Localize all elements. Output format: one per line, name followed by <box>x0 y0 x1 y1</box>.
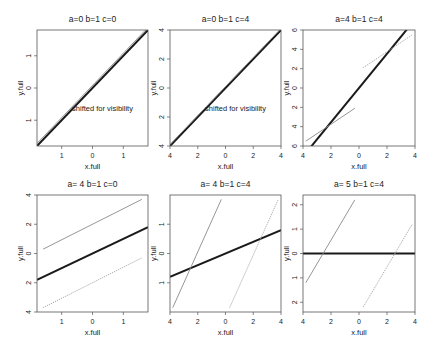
series-right <box>230 199 279 307</box>
series-group <box>303 200 415 307</box>
y-tick-label: 2 <box>291 67 298 71</box>
x-axis-label: x.full <box>351 162 367 171</box>
x-tick-label: 0 <box>357 318 361 325</box>
x-tick-label: 0 <box>357 152 361 159</box>
x-tick-label: 4 <box>301 152 305 159</box>
y-axis-label: y.full <box>16 246 25 261</box>
x-tick-label: 4 <box>413 152 417 159</box>
y-tick-label: 1 <box>158 281 165 285</box>
y-tick-label: 2 <box>158 57 165 61</box>
x-tick-label: 1 <box>121 318 125 325</box>
y-axis-label: y.full <box>282 246 291 261</box>
y-tick-label: 4 <box>25 193 32 197</box>
series-right <box>363 224 412 307</box>
x-tick-label: 0 <box>91 318 95 325</box>
panel-title: a=4 b=1 c=4 <box>335 14 383 24</box>
x-tick-label: 4 <box>168 318 172 325</box>
series-lower <box>306 108 355 141</box>
x-tick-label: 2 <box>329 318 333 325</box>
series-group <box>170 199 281 307</box>
series-left <box>306 200 355 283</box>
chart-panel-2: a=0 b=1 c=44202442024x.fully.fullshifted… <box>149 14 283 171</box>
x-tick-label: 2 <box>251 152 255 159</box>
series-fit <box>37 227 148 280</box>
x-tick-label: 2 <box>196 318 200 325</box>
y-axis-label: y.full <box>149 80 158 95</box>
x-axis-label: x.full <box>218 328 234 337</box>
y-tick-label: 0 <box>291 251 298 255</box>
series-shifted <box>37 27 148 143</box>
y-tick-label: 2 <box>158 115 165 119</box>
y-tick-label: 1 <box>291 276 298 280</box>
y-axis-label: y.full <box>282 80 291 95</box>
x-tick-label: 2 <box>329 152 333 159</box>
y-axis-label: y.full <box>16 80 25 95</box>
x-tick-label: 2 <box>385 318 389 325</box>
x-tick-label: 4 <box>279 152 283 159</box>
series-left <box>173 199 222 307</box>
series-group <box>37 199 148 307</box>
x-tick-label: 4 <box>168 152 172 159</box>
panel-title: a=0 b=1 c=4 <box>202 14 250 24</box>
x-tick-label: 4 <box>279 318 283 325</box>
series-upper <box>363 35 412 68</box>
series-lower <box>43 258 142 308</box>
y-tick-label: 1 <box>25 54 32 58</box>
chart-panel-3: a=4 b=1 c=4420246420246x.fully.full <box>282 14 417 171</box>
x-tick-label: 2 <box>385 152 389 159</box>
y-tick-label: 4 <box>291 125 298 129</box>
y-tick-label: 2 <box>291 300 298 304</box>
y-tick-label: 2 <box>291 203 298 207</box>
y-axis-label: y.full <box>149 246 158 261</box>
chart-panel-5: a= 4 b=1 c=442024101x.fully.full <box>149 179 283 337</box>
x-tick-label: 2 <box>196 152 200 159</box>
chart-grid: a=0 b=1 c=0101101x.fully.fullshifted for… <box>0 0 435 349</box>
x-tick-label: 2 <box>251 318 255 325</box>
panel-title: a= 5 b=1 c=4 <box>334 179 384 189</box>
series-fit <box>170 230 281 277</box>
x-tick-label: 0 <box>91 152 95 159</box>
y-tick-label: 6 <box>291 28 298 32</box>
series-fit <box>37 30 148 146</box>
y-tick-label: 4 <box>158 28 165 32</box>
chart-panel-4: a= 4 b=1 c=010142024x.fully.full <box>16 179 148 337</box>
y-tick-label: 2 <box>25 222 32 226</box>
x-tick-label: 4 <box>413 318 417 325</box>
y-tick-label: 2 <box>291 105 298 109</box>
x-axis-label: x.full <box>351 328 367 337</box>
y-tick-label: 0 <box>25 86 32 90</box>
x-axis-label: x.full <box>218 162 234 171</box>
x-tick-label: 1 <box>121 152 125 159</box>
series-shifted <box>170 29 281 145</box>
series-fit <box>170 30 281 146</box>
y-tick-label: 1 <box>25 118 32 122</box>
x-tick-label: 0 <box>224 318 228 325</box>
series-upper <box>43 199 142 249</box>
y-tick-label: 2 <box>25 281 32 285</box>
series-group <box>306 28 412 148</box>
y-tick-label: 4 <box>291 47 298 51</box>
x-tick-label: 0 <box>224 152 228 159</box>
x-axis-label: x.full <box>85 162 101 171</box>
series-group <box>170 29 281 146</box>
y-tick-label: 0 <box>291 86 298 90</box>
x-tick-label: 1 <box>60 318 64 325</box>
series-group <box>37 27 148 146</box>
y-tick-label: 1 <box>291 227 298 231</box>
panel-title: a= 4 b=1 c=4 <box>201 179 251 189</box>
series-fit <box>310 28 408 148</box>
chart-panel-1: a=0 b=1 c=0101101x.fully.fullshifted for… <box>16 14 148 171</box>
y-tick-label: 6 <box>291 144 298 148</box>
y-tick-label: 1 <box>158 222 165 226</box>
panel-title: a=0 b=1 c=0 <box>69 14 117 24</box>
annotation-text: shifted for visibility <box>72 104 133 113</box>
y-tick-label: 0 <box>158 251 165 255</box>
y-tick-label: 0 <box>158 86 165 90</box>
annotation-text: shifted for visibility <box>205 104 266 113</box>
chart-panel-6: a= 5 b=1 c=44202421012x.fully.full <box>282 179 417 337</box>
x-tick-label: 1 <box>60 152 64 159</box>
y-tick-label: 4 <box>158 144 165 148</box>
y-tick-label: 4 <box>25 310 32 314</box>
panel-title: a= 4 b=1 c=0 <box>68 179 118 189</box>
x-axis-label: x.full <box>85 328 101 337</box>
